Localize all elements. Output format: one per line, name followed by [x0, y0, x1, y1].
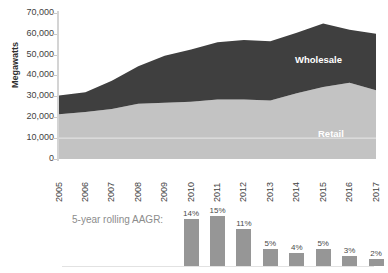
y-tick-mark-50000 — [53, 55, 57, 56]
aagr-panel: 5-year rolling AAGR: 14%15%11%5%4%5%3%2% — [0, 200, 380, 273]
y-tick-mark-40000 — [53, 75, 57, 76]
aagr-value-2012: 11% — [231, 219, 257, 228]
aagr-value-2013: 5% — [257, 239, 283, 248]
x-tick-2016: 2016 — [344, 182, 354, 202]
aagr-value-2016: 3% — [337, 246, 363, 255]
x-tick-2015: 2015 — [318, 182, 328, 202]
x-tick-2010: 2010 — [186, 182, 196, 202]
y-tick-mark-70000 — [53, 13, 57, 14]
y-axis-tick-labels: 70,000 60,000 50,000 40,000 30,000 20,00… — [8, 0, 54, 165]
x-tick-2017: 2017 — [371, 182, 381, 202]
x-axis-tick-labels: 2005200620072008200920102011201220132014… — [0, 160, 380, 202]
aagr-value-2014: 4% — [284, 243, 310, 252]
y-tick-30000: 30,000 — [8, 91, 54, 100]
y-tick-mark-20000 — [53, 117, 57, 118]
y-tick-mark-30000 — [53, 96, 57, 97]
y-tick-mark-60000 — [53, 34, 57, 35]
aagr-value-2015: 5% — [310, 239, 336, 248]
aagr-bar-2011 — [210, 216, 225, 266]
x-tick-2008: 2008 — [133, 182, 143, 202]
aagr-value-2017: 2% — [363, 249, 388, 258]
x-tick-2014: 2014 — [291, 182, 301, 202]
aagr-bar-2016 — [342, 256, 357, 266]
aagr-baseline — [62, 266, 374, 267]
y-tick-60000: 60,000 — [8, 29, 54, 38]
y-tick-mark-10000 — [53, 138, 57, 139]
x-tick-2007: 2007 — [106, 182, 116, 202]
aagr-bar-2013 — [263, 249, 278, 266]
y-tick-40000: 40,000 — [8, 70, 54, 79]
y-tick-50000: 50,000 — [8, 50, 54, 59]
aagr-caption: 5-year rolling AAGR: — [72, 214, 163, 225]
y-tick-10000: 10,000 — [8, 133, 54, 142]
x-tick-2006: 2006 — [80, 182, 90, 202]
series-label-wholesale: Wholesale — [295, 54, 342, 65]
aagr-value-2010: 14% — [178, 209, 204, 218]
x-tick-2009: 2009 — [159, 182, 169, 202]
aagr-bar-2015 — [316, 249, 331, 266]
series-label-retail: Retail — [318, 128, 344, 139]
aagr-bar-2017 — [369, 259, 384, 266]
x-tick-2012: 2012 — [238, 182, 248, 202]
x-tick-2005: 2005 — [54, 182, 64, 202]
x-tick-2013: 2013 — [265, 182, 275, 202]
y-tick-20000: 20,000 — [8, 112, 54, 121]
aagr-bar-2012 — [236, 229, 251, 266]
aagr-value-2011: 15% — [205, 206, 231, 215]
aagr-bar-2010 — [184, 219, 199, 266]
y-tick-70000: 70,000 — [8, 8, 54, 17]
aagr-bar-2014 — [289, 253, 304, 266]
